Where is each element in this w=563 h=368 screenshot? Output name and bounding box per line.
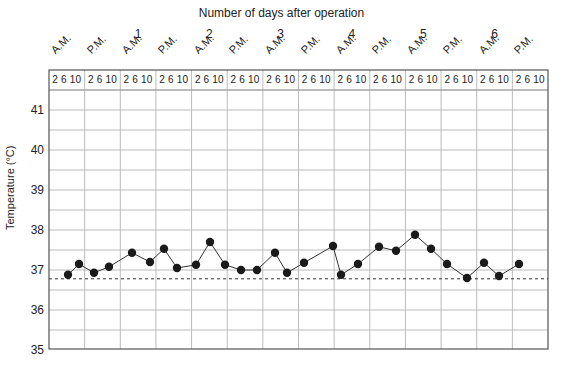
data-point [354, 260, 362, 268]
data-point [105, 263, 113, 271]
data-point [90, 269, 98, 277]
data-point [128, 249, 136, 257]
data-point [495, 272, 503, 280]
data-point [75, 260, 83, 268]
data-point [427, 245, 435, 253]
data-point [206, 238, 214, 246]
data-point [146, 258, 154, 266]
data-point [337, 271, 345, 279]
data-point [173, 264, 181, 272]
data-point [271, 249, 279, 257]
data-point [221, 261, 229, 269]
data-point [463, 274, 471, 282]
data-point [192, 261, 200, 269]
data-point [253, 266, 261, 274]
data-point [392, 247, 400, 255]
data-point [480, 259, 488, 267]
data-point [160, 245, 168, 253]
data-point [283, 269, 291, 277]
data-point [300, 259, 308, 267]
data-point [411, 231, 419, 239]
data-point [329, 242, 337, 250]
data-point [515, 260, 523, 268]
data-point [64, 271, 72, 279]
data-point [443, 260, 451, 268]
temperature-line [68, 235, 519, 278]
temperature-chart [0, 0, 563, 368]
data-point [375, 243, 383, 251]
data-point [237, 266, 245, 274]
